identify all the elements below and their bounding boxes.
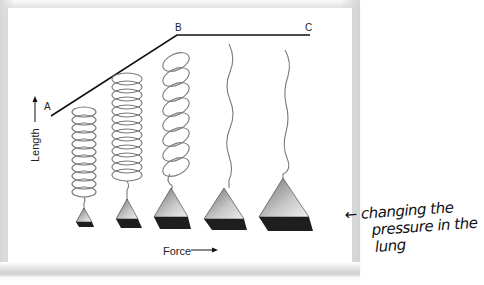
weight-3 bbox=[154, 188, 191, 229]
weight-2 bbox=[116, 199, 142, 228]
x-axis-label: Force bbox=[163, 245, 191, 257]
coil-spring-3 bbox=[160, 49, 192, 190]
straightened-wire-5 bbox=[283, 50, 289, 178]
handwritten-annotation: ← changing the pressure in the lung bbox=[372, 197, 484, 256]
coil-spring-1 bbox=[72, 107, 96, 210]
weight-5 bbox=[259, 178, 313, 231]
length-axis-arrow-icon bbox=[33, 96, 38, 122]
coil-spring-2 bbox=[112, 73, 142, 200]
length-force-curve bbox=[51, 35, 310, 116]
y-axis-label: Length bbox=[29, 128, 41, 162]
point-label-b: B bbox=[175, 23, 182, 33]
frame-bottom-shadow bbox=[0, 262, 360, 278]
straightened-wire-4 bbox=[227, 44, 233, 188]
weight-4 bbox=[204, 188, 247, 230]
weight-1 bbox=[76, 208, 94, 227]
force-axis-arrow-icon bbox=[191, 248, 218, 253]
point-label-c: C bbox=[305, 23, 312, 33]
point-label-a: A bbox=[44, 102, 51, 112]
